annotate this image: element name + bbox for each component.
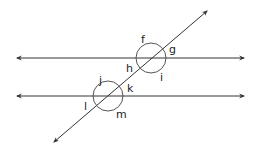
angle-label-i: i [160,71,163,84]
angle-label-j: j [98,74,102,87]
transversal-line [54,11,207,142]
angle-label-k: k [127,82,134,95]
angle-label-g: g [169,43,176,56]
angle-label-l: l [84,100,87,113]
diagram-canvas: f g h i j k l m [0,0,255,151]
angle-label-m: m [116,108,127,121]
angle-label-h: h [126,62,133,75]
